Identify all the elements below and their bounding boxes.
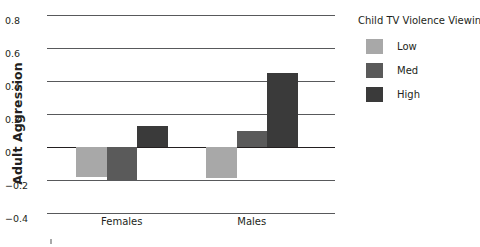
bar-males-high bbox=[267, 73, 298, 147]
bar-males-low bbox=[206, 147, 237, 178]
legend-items: LowMedHigh bbox=[358, 34, 478, 106]
bar-females-low bbox=[76, 147, 107, 177]
gridline bbox=[47, 48, 335, 49]
legend-label-med: Med bbox=[397, 64, 418, 77]
y-axis-tick-label: 0 bbox=[5, 147, 45, 159]
y-axis-tick-label: −0.4 bbox=[5, 213, 45, 225]
y-axis-tick-label: 0.8 bbox=[5, 15, 45, 27]
gridline bbox=[47, 15, 335, 16]
axis-baseline bbox=[47, 213, 335, 214]
legend-item-high: High bbox=[358, 82, 478, 106]
x-axis-tick-label: Females bbox=[76, 215, 168, 229]
legend-swatch-low bbox=[366, 39, 383, 54]
bar-females-high bbox=[137, 126, 168, 147]
legend-label-high: High bbox=[397, 88, 420, 101]
legend-swatch-high bbox=[366, 87, 383, 102]
y-axis-tick-label: −0.2 bbox=[5, 180, 45, 192]
legend-label-low: Low bbox=[397, 40, 417, 53]
y-axis-tick-label: 0.4 bbox=[5, 81, 45, 93]
bar-females-med bbox=[107, 147, 138, 180]
gridline bbox=[47, 180, 335, 181]
legend-item-low: Low bbox=[358, 34, 478, 58]
bar-chart-figure: Adult Aggression 0.80.60.40.20−0.2−0.4 F… bbox=[0, 0, 480, 247]
legend-item-med: Med bbox=[358, 58, 478, 82]
legend: Child TV Violence Viewing LowMedHigh bbox=[358, 14, 478, 106]
plot-area: 0.80.60.40.20−0.2−0.4 FemalesMales bbox=[47, 15, 335, 213]
x-axis-tick-label: Males bbox=[206, 215, 298, 229]
y-axis-tick-label: 0.6 bbox=[5, 48, 45, 60]
bar-males-med bbox=[237, 131, 268, 148]
legend-swatch-med bbox=[366, 63, 383, 78]
legend-title: Child TV Violence Viewing bbox=[358, 14, 478, 27]
y-axis-tick-label: 0.2 bbox=[5, 114, 45, 126]
scan-artifact-mark bbox=[50, 239, 52, 244]
